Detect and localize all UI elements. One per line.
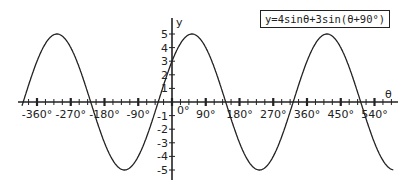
y-tick-label: 4 — [161, 42, 168, 55]
x-tick-label: 360° — [294, 108, 321, 121]
equation-label: y=4sinθ+3sin(θ+90°) — [260, 10, 390, 28]
x-axis-label: θ — [385, 88, 392, 101]
chart: -360°-270°-180°-90°0°90°180°270°360°450°… — [0, 0, 406, 192]
y-axis-label: y — [176, 16, 183, 29]
x-tick-label: -360° — [22, 108, 52, 121]
y-tick-label: -4 — [157, 150, 168, 163]
x-tick-label: 90° — [196, 108, 216, 121]
y-tick-label: 5 — [161, 28, 168, 41]
x-axis: -360°-270°-180°-90°0°90°180°270°360°450°… — [18, 98, 398, 121]
y-tick-label: -3 — [157, 137, 168, 150]
x-tick-label: 270° — [260, 108, 287, 121]
y-tick-label: 3 — [161, 55, 168, 68]
x-tick-label: 0° — [177, 104, 190, 117]
x-tick-label: 450° — [328, 108, 355, 121]
y-tick-label: -1 — [157, 110, 168, 123]
y-tick-label: -5 — [157, 164, 168, 177]
x-tick-label: -270° — [56, 108, 86, 121]
x-tick-label: -90° — [127, 108, 150, 121]
y-tick-label: -2 — [157, 123, 168, 136]
